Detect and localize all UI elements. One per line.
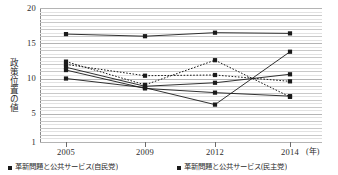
grid-line	[40, 135, 322, 136]
grid-line	[40, 86, 322, 87]
grid-line	[40, 79, 322, 80]
grid-line-minor	[40, 40, 322, 41]
y-axis-tick-label: 5	[10, 109, 36, 118]
grid-line-minor	[40, 12, 322, 13]
grid-line	[40, 114, 322, 115]
grid-line-minor	[40, 47, 322, 48]
y-axis-tick-label: 15	[10, 39, 36, 48]
grid-line-minor	[40, 103, 322, 104]
grid-line-minor	[40, 138, 322, 139]
legend-item-label: 革新問題と公共サービス(自民党)	[15, 163, 118, 171]
chart-legend: 革新問題と公共サービス(自民党) 革新問題と公共サービス(民主党)	[0, 163, 338, 175]
legend-item-label: 革新問題と公共サービス(民主党)	[184, 163, 287, 171]
grid-line	[40, 15, 322, 16]
grid-line-minor	[40, 124, 322, 125]
grid-line	[40, 128, 322, 129]
grid-line-minor	[40, 26, 322, 27]
grid-line	[40, 142, 322, 143]
grid-line-minor	[40, 117, 322, 118]
square-marker-icon	[8, 166, 12, 170]
chart-figure: 政策位置の値 15101520 2005200920122014 (年) 革新問…	[0, 0, 338, 175]
grid-line-minor	[40, 54, 322, 55]
grid-line	[40, 57, 322, 58]
grid-line-minor	[40, 110, 322, 111]
grid-line-minor	[40, 75, 322, 76]
grid-line	[40, 121, 322, 122]
y-axis-tick-label: 20	[10, 4, 36, 13]
grid-line	[40, 107, 322, 108]
x-axis-tick-label: 2009	[123, 148, 167, 157]
grid-line	[40, 71, 322, 72]
grid-line-minor	[40, 19, 322, 20]
grid-line	[40, 50, 322, 51]
grid-line	[40, 22, 322, 23]
y-axis-tick-label: 10	[10, 74, 36, 83]
grid-line-minor	[40, 61, 322, 62]
grid-line	[40, 29, 322, 30]
grid-line-minor	[40, 89, 322, 90]
grid-line	[40, 8, 322, 9]
legend-item: 革新問題と公共サービス(自民党)	[0, 163, 169, 175]
grid-line	[40, 93, 322, 94]
y-axis-tick-label: 1	[10, 138, 36, 147]
x-axis-tick-label: 2005	[44, 148, 88, 157]
grid-line	[40, 43, 322, 44]
grid-line	[40, 100, 322, 101]
grid-line-minor	[40, 68, 322, 69]
x-axis-tick-label: 2012	[193, 148, 237, 157]
grid-line	[40, 36, 322, 37]
grid-line-minor	[40, 131, 322, 132]
square-marker-icon	[177, 166, 181, 170]
legend-item: 革新問題と公共サービス(民主党)	[169, 163, 338, 175]
x-axis-unit-label: (年)	[306, 147, 319, 156]
grid-line-minor	[40, 33, 322, 34]
grid-line-minor	[40, 82, 322, 83]
grid-line-minor	[40, 96, 322, 97]
grid-line	[40, 64, 322, 65]
